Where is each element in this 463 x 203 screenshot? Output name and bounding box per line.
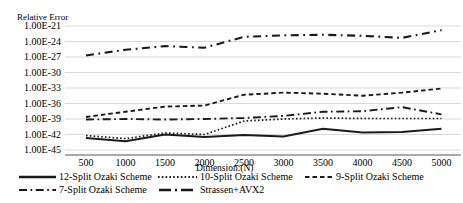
- legend-sample-dotted: [158, 172, 197, 182]
- x-tick-label: 3000: [274, 157, 294, 168]
- y-tick-label: 1.00E-45: [24, 144, 61, 155]
- y-tick-label: 1.00E-30: [24, 67, 61, 78]
- legend-item-12-split-ozaki-scheme: 12-Split Ozaki Scheme: [19, 171, 152, 183]
- series-line-strassen-avx2: [86, 30, 442, 55]
- legend-item-strassen-avx2: Strassen+AVX2: [159, 184, 264, 196]
- y-tick-label: 1.00E-27: [24, 51, 61, 62]
- x-tick-label: 1500: [155, 157, 175, 168]
- y-tick-label: 1.00E-36: [24, 98, 61, 109]
- legend-label: 9-Split Ozaki Scheme: [336, 171, 424, 183]
- legend-item-9-split-ozaki-scheme: 9-Split Ozaki Scheme: [305, 171, 424, 183]
- legend-label: Strassen+AVX2: [200, 184, 264, 196]
- legend-label: 10-Split Ozaki Scheme: [200, 171, 293, 183]
- relative-error-chart: 1.00E-211.00E-241.00E-271.00E-301.00E-33…: [0, 0, 463, 203]
- legend-item-10-split-ozaki-scheme: 10-Split Ozaki Scheme: [158, 171, 293, 183]
- legend-sample-dashed: [305, 172, 333, 182]
- x-tick-label: 3500: [313, 157, 333, 168]
- legend-sample-solid: [19, 172, 56, 182]
- x-tick-label: 1000: [116, 157, 136, 168]
- y-tick-label: 1.00E-33: [24, 82, 61, 93]
- y-tick-label: 1.00E-24: [24, 36, 61, 47]
- legend-item-7-split-ozaki-scheme: 7-Split Ozaki Scheme: [19, 184, 147, 196]
- y-tick-label: 1.00E-39: [24, 113, 61, 124]
- x-tick-label: 4000: [353, 157, 373, 168]
- legend-sample-dash-dot: [19, 185, 56, 195]
- legend-sample-long-dash-dot: [159, 185, 197, 195]
- y-axis-title: Relative Error: [17, 12, 68, 22]
- legend-label: 12-Split Ozaki Scheme: [59, 171, 152, 183]
- series-line-9-split-ozaki-scheme: [86, 89, 442, 117]
- series-line-12-split-ozaki-scheme: [86, 129, 442, 141]
- x-tick-label: 500: [79, 157, 94, 168]
- y-tick-label: 1.00E-42: [24, 129, 61, 140]
- legend-label: 7-Split Ozaki Scheme: [59, 184, 147, 196]
- x-tick-label: 5000: [432, 157, 452, 168]
- x-tick-label: 4500: [392, 157, 412, 168]
